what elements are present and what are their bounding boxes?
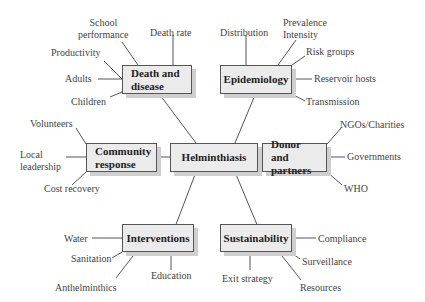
node-label-line2: response	[95, 158, 136, 171]
branch-governments: Governments	[347, 151, 401, 163]
branch-risk-groups: Risk groups	[306, 46, 354, 58]
branch-resources: Resources	[300, 282, 341, 294]
node-death-and-disease: Death and disease	[122, 65, 192, 94]
node-epidemiology: Epidemiology	[220, 65, 292, 94]
branch-who: WHO	[344, 183, 368, 195]
branch-children: Children	[71, 96, 106, 108]
center-node-helminthiasis: Helminthiasis	[170, 143, 258, 172]
node-community-response: Community response	[86, 143, 157, 172]
branch-text: Intensity	[283, 29, 327, 41]
branch-water: Water	[64, 233, 88, 245]
branch-volunteers: Volunteers	[30, 118, 73, 130]
branch-ngos-charities: NGOs/Charities	[340, 119, 404, 131]
node-donor-and-partners: Donor and partners	[262, 143, 327, 172]
branch-death-rate: Death rate	[150, 27, 191, 39]
branch-prevalence-intensity: Prevalence Intensity	[283, 17, 327, 41]
node-label-line1: Death and	[131, 67, 180, 80]
node-label-line1: Donor and	[271, 138, 318, 164]
branch-sanitation: Sanitation	[71, 253, 112, 265]
branch-text: leadership	[20, 161, 61, 173]
branch-school-performance: School performance	[78, 17, 129, 41]
branch-education: Education	[151, 270, 192, 282]
branch-cost-recovery: Cost recovery	[44, 183, 100, 195]
branch-exit-strategy: Exit strategy	[222, 273, 273, 285]
branch-adults: Adults	[65, 73, 92, 85]
branch-productivity: Productivity	[51, 47, 100, 59]
node-label-line2: disease	[131, 80, 164, 93]
branch-anthelminthics: Anthelminthics	[55, 282, 117, 294]
branch-surveillance: Surveillance	[302, 256, 352, 268]
branch-text: performance	[78, 29, 129, 41]
branch-local-leadership: Local leadership	[20, 149, 61, 173]
node-label-line1: Community	[95, 145, 151, 158]
branch-compliance: Compliance	[318, 233, 366, 245]
node-label-line2: partners	[271, 164, 311, 177]
branch-text: School	[78, 17, 129, 29]
node-sustainability: Sustainability	[220, 224, 292, 252]
branch-distribution: Distribution	[220, 27, 268, 39]
branch-text: Prevalence	[283, 17, 327, 29]
branch-transmission: Transmission	[306, 96, 360, 108]
branch-text: Local	[20, 149, 61, 161]
branch-reservoir-hosts: Reservoir hosts	[314, 73, 376, 85]
node-interventions: Interventions	[122, 224, 194, 252]
